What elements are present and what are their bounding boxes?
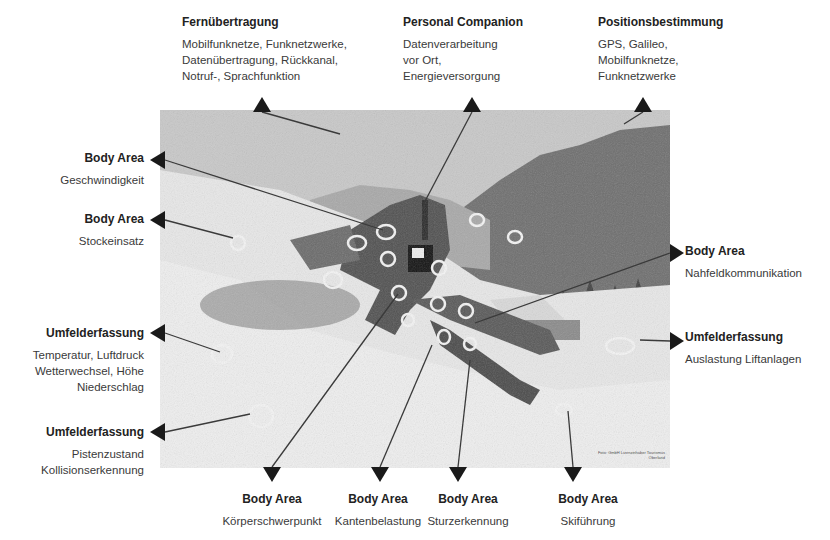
label-title: Body Area <box>212 491 332 507</box>
label-body-area-koerperschwerpunkt: Body Area Körperschwerpunkt <box>212 491 332 529</box>
label-title: Fernübertragung <box>182 14 347 30</box>
label-body-area-geschwindigkeit: Body Area Geschwindigkeit <box>60 150 144 188</box>
arrow-down-icon <box>564 467 582 482</box>
label-title: Body Area <box>538 491 638 507</box>
label-title: Body Area <box>685 243 802 259</box>
label-umfelderfassung-lift: Umfelderfassung Auslastung Liftanlagen <box>685 329 801 367</box>
arrow-right-icon <box>670 332 684 350</box>
photo-credit: Foto: GmbH Lizenzinhaber Tourismus Oberl… <box>590 450 665 460</box>
label-body-area-stockeinsatz: Body Area Stockeinsatz <box>79 211 144 249</box>
label-title: Personal Companion <box>403 14 523 30</box>
label-desc: Stockeinsatz <box>79 233 144 249</box>
arrow-right-icon <box>670 244 684 262</box>
label-title: Body Area <box>60 150 144 166</box>
arrow-down-icon <box>449 467 467 482</box>
label-desc: Temperatur, Luftdruck Wetterwechsel, Höh… <box>33 347 144 395</box>
label-desc: Körperschwerpunkt <box>212 513 332 529</box>
label-title: Positionsbestimmung <box>598 14 723 30</box>
photo-illustration <box>160 110 670 468</box>
label-desc: Auslastung Liftanlagen <box>685 351 801 367</box>
arrow-down-icon <box>263 467 281 482</box>
label-body-area-nahfeld: Body Area Nahfeldkommunikation <box>685 243 802 281</box>
label-desc: Skiführung <box>538 513 638 529</box>
label-title: Umfelderfassung <box>33 325 144 341</box>
label-fernuebertragung: Fernübertragung Mobilfunknetze, Funknetz… <box>182 14 347 84</box>
label-positionsbestimmung: Positionsbestimmung GPS, Galileo, Mobilf… <box>598 14 723 84</box>
label-personal-companion: Personal Companion Datenverarbeitung vor… <box>403 14 523 84</box>
label-umfelderfassung-piste: Umfelderfassung Pistenzustand Kollisions… <box>41 424 144 478</box>
label-desc: GPS, Galileo, Mobilfunknetze, Funknetzwe… <box>598 36 723 84</box>
label-desc: Pistenzustand Kollisionserkennung <box>41 446 144 478</box>
label-title: Umfelderfassung <box>41 424 144 440</box>
label-desc: Sturzerkennung <box>418 513 518 529</box>
label-desc: Nahfeldkommunikation <box>685 265 802 281</box>
label-title: Umfelderfassung <box>685 329 801 345</box>
label-desc: Geschwindigkeit <box>60 172 144 188</box>
label-title: Body Area <box>79 211 144 227</box>
ski-scene-photo <box>160 110 670 468</box>
label-umfelderfassung-wetter: Umfelderfassung Temperatur, Luftdruck We… <box>33 325 144 395</box>
label-body-area-skifuehrung: Body Area Skiführung <box>538 491 638 529</box>
label-desc: Mobilfunknetze, Funknetzwerke, Datenüber… <box>182 36 347 84</box>
label-desc: Datenverarbeitung vor Ort, Energieversor… <box>403 36 523 84</box>
label-title: Body Area <box>418 491 518 507</box>
label-body-area-sturzerkennung: Body Area Sturzerkennung <box>418 491 518 529</box>
arrow-down-icon <box>371 467 389 482</box>
